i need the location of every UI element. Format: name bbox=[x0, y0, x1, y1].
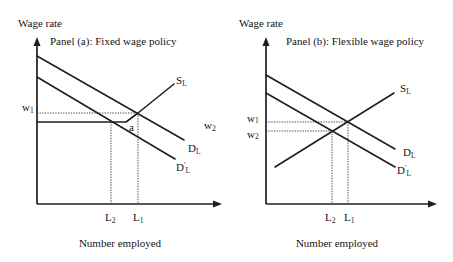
demand-curve-label: DL bbox=[403, 146, 416, 160]
point-a-label: a bbox=[129, 121, 134, 133]
y-axis-arrow-icon bbox=[34, 37, 41, 46]
w2-label: w2 bbox=[204, 119, 216, 133]
x-axis-label: Number employed bbox=[79, 237, 162, 249]
supply-curve-label: SL bbox=[176, 74, 187, 88]
demand-curve-label: DL bbox=[188, 142, 201, 156]
w1-label: w1 bbox=[22, 101, 34, 115]
x-axis-arrow-icon bbox=[213, 201, 222, 208]
l1-label: L1 bbox=[344, 211, 355, 225]
x-axis-arrow-icon bbox=[428, 201, 437, 208]
labor-market-diagram: Wage rate Panel (a): Fixed wage policy w… bbox=[0, 0, 453, 262]
shifted-demand-curve bbox=[37, 77, 175, 159]
demand-curve bbox=[266, 75, 395, 149]
y-axis-arrow-icon bbox=[263, 37, 270, 46]
l1-label: L1 bbox=[133, 211, 144, 225]
shifted-demand-curve-label: D′L bbox=[176, 161, 191, 175]
supply-curve-label: SL bbox=[400, 82, 411, 96]
l2-label: L2 bbox=[325, 211, 336, 225]
w1-label: w1 bbox=[247, 112, 259, 125]
x-axis-label: Number employed bbox=[296, 237, 379, 249]
panel-a: Wage rate Panel (a): Fixed wage policy w… bbox=[18, 17, 222, 249]
y-axis-label: Wage rate bbox=[239, 17, 283, 29]
y-axis-label: Wage rate bbox=[18, 17, 62, 29]
panel-title: Panel (b): Flexible wage policy bbox=[286, 35, 425, 48]
w2-label: w2 bbox=[247, 128, 259, 141]
panel-title: Panel (a): Fixed wage policy bbox=[50, 35, 177, 48]
panel-b: Wage rate Panel (b): Flexible wage polic… bbox=[239, 17, 437, 249]
l2-label: L2 bbox=[105, 211, 116, 225]
demand-curve bbox=[37, 56, 184, 140]
shifted-demand-curve-label: D′L bbox=[397, 164, 412, 178]
